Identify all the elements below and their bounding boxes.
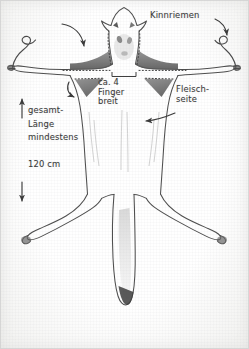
label-fleischseite: Fleisch- seite: [176, 85, 209, 104]
arrow-to-chin-strap: [215, 19, 227, 35]
tail-shade: [119, 208, 132, 300]
pelt-diagram-page: Kinnriemen ca. 4 Finger breit Fleisch- s…: [0, 0, 249, 349]
shoulder-shade-left: [70, 50, 112, 70]
ear-tip-shade-right: [130, 22, 136, 28]
nose-shade: [121, 51, 127, 55]
front-leg-right: [178, 66, 235, 76]
shoulder-shade-right: [136, 50, 178, 70]
paw-shade-fl: [7, 65, 15, 71]
arrow-to-flesh-side: [146, 113, 175, 121]
width-bracket: [112, 72, 136, 77]
arrow-to-shoulder: [62, 24, 84, 46]
cord-right: [215, 36, 236, 67]
arrow-to-armpit: [68, 82, 74, 97]
paw-shade-hl: [21, 236, 31, 244]
armpit-wedge-right: [144, 79, 173, 97]
label-total-length: gesamt- Länge mindestens 120 cm: [28, 104, 78, 172]
paw-shade-hr: [217, 236, 227, 244]
label-four-fingers-width: ca. 4 Finger breit: [98, 78, 124, 107]
label-kinnriemen: Kinnriemen: [150, 11, 199, 21]
cord-left: [13, 36, 36, 67]
ear-tip-shade-left: [113, 22, 119, 28]
paw-shade-fr: [233, 65, 241, 71]
fur-texture: [89, 110, 159, 172]
hind-leg-right: [146, 194, 220, 240]
pelt-illustration: [0, 0, 249, 349]
hind-leg-left: [27, 194, 101, 240]
crotch-right: [134, 194, 146, 198]
front-leg-left: [13, 66, 70, 76]
crotch-left: [102, 194, 114, 198]
